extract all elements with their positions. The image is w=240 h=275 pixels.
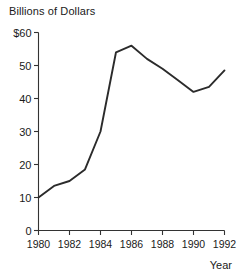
x-tick-label: 1988 xyxy=(151,238,175,250)
x-axis-title: Year xyxy=(210,259,232,271)
line-chart: Billions of Dollars $6050403020100 19801… xyxy=(0,0,240,275)
chart-plot-area: $6050403020100 1980198219841986198819901… xyxy=(0,0,240,275)
chart-axes xyxy=(39,33,225,231)
x-axis-ticks: 1980198219841986198819901992 xyxy=(27,231,237,250)
x-tick-label: 1986 xyxy=(120,238,144,250)
y-tick-label: 10 xyxy=(19,192,31,204)
x-tick-label: 1984 xyxy=(89,238,113,250)
y-tick-label: 40 xyxy=(19,93,31,105)
y-axis-ticks: $6050403020100 xyxy=(13,27,38,237)
y-tick-label: $60 xyxy=(13,27,31,39)
x-tick-label: 1980 xyxy=(27,238,51,250)
x-tick-label: 1992 xyxy=(213,238,237,250)
y-tick-label: 50 xyxy=(19,60,31,72)
y-tick-label: 0 xyxy=(25,225,31,237)
x-tick-label: 1982 xyxy=(58,238,82,250)
data-series-line xyxy=(39,46,225,198)
y-tick-label: 20 xyxy=(19,159,31,171)
y-tick-label: 30 xyxy=(19,126,31,138)
x-tick-label: 1990 xyxy=(182,238,206,250)
